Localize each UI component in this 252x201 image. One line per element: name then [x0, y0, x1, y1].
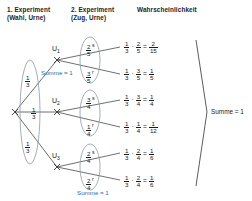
stage2-u3-prob-s: 2 4 s — [86, 148, 91, 166]
result-6-value-denominator: 6 — [149, 181, 154, 188]
result-1-b-denominator: 5 — [136, 47, 141, 54]
node-label-u2: U2 — [52, 97, 60, 106]
stage1-prob-3-denominator: 3 — [25, 147, 30, 154]
result-2-times: · — [131, 71, 134, 78]
stage2-u2-outcome-r: r — [92, 122, 94, 128]
result-4-equals: = — [143, 124, 148, 131]
stage2-u2-outcome-s: s — [92, 95, 95, 101]
result-5-a-denominator: 3 — [124, 154, 129, 161]
stage2-u1-prob-s: 2 5 s — [86, 41, 91, 59]
result-row: 13 · 24 = 16 — [124, 148, 154, 161]
column-header-experiment-1: 1. Experiment (Wahl, Urne) — [7, 6, 50, 23]
stage1-prob-2-denominator: 3 — [31, 113, 36, 120]
result-2-equals: = — [143, 71, 148, 78]
stage2-u1-outcome-r: r — [92, 69, 94, 75]
stage2-u1-prob-s-denominator: 5 — [86, 50, 91, 57]
node-u3-marker — [54, 164, 60, 170]
stage2-u2-prob-r: 1 4 r — [86, 121, 91, 139]
result-6-equals: = — [143, 178, 148, 185]
node-u1-marker — [54, 57, 60, 63]
column-header-experiment-2: 2. Experiment (Zug, Urne) — [71, 6, 114, 23]
result-3-times: · — [131, 97, 134, 104]
result-2-value-denominator: 5 — [149, 74, 154, 81]
stage1-prob-1-denominator: 3 — [25, 81, 30, 88]
result-row: 13 · 34 = 14 — [124, 94, 154, 107]
result-5-times: · — [131, 151, 134, 158]
result-1-equals: = — [143, 44, 148, 51]
result-6-a-denominator: 3 — [124, 181, 129, 188]
result-2-b-denominator: 5 — [136, 74, 141, 81]
result-1-times: · — [131, 44, 134, 51]
stage2-u1-outcome-s: s — [92, 42, 95, 48]
result-4-value-denominator: 12 — [149, 127, 158, 134]
node-label-u3: U3 — [52, 152, 60, 161]
result-3-value-denominator: 4 — [149, 100, 154, 107]
node-label-u1: U1 — [52, 45, 60, 54]
stage2-u1-prob-r: 3 5 r — [86, 68, 91, 86]
stage2-u2-prob-r-denominator: 4 — [86, 130, 91, 137]
stage2-summe-label: Summe = 1 — [77, 189, 109, 196]
result-1-a-denominator: 3 — [124, 47, 129, 54]
result-6-b-denominator: 4 — [136, 181, 141, 188]
node-label-u2-subscript: 2 — [57, 100, 60, 106]
probability-tree-diagram: 1. Experiment (Wahl, Urne) 2. Experiment… — [0, 0, 252, 201]
result-row: 13 · 24 = 16 — [124, 175, 154, 188]
result-4-b-denominator: 4 — [136, 127, 141, 134]
stage2-u3-prob-s-denominator: 4 — [86, 157, 91, 164]
stage2-u2-prob-s-denominator: 4 — [86, 103, 91, 110]
total-summe-label: Summe = 1 — [211, 108, 244, 115]
node-label-u1-subscript: 1 — [57, 48, 60, 54]
result-row: 13 · 25 = 215 — [124, 41, 158, 54]
result-5-value-denominator: 6 — [149, 154, 154, 161]
result-3-a-denominator: 3 — [124, 100, 129, 107]
result-4-times: · — [131, 124, 134, 131]
result-3-b-denominator: 4 — [136, 100, 141, 107]
stage2-u1-prob-r-denominator: 5 — [86, 77, 91, 84]
stage1-summe-label: Summe = 1 — [41, 69, 73, 76]
stage2-u3-outcome-s: s — [92, 149, 95, 155]
stage1-prob-1: 1 3 — [25, 72, 30, 90]
result-2-a-denominator: 3 — [124, 74, 129, 81]
result-3-equals: = — [143, 97, 148, 104]
result-row: 13 · 14 = 112 — [124, 121, 158, 134]
result-5-b-denominator: 4 — [136, 154, 141, 161]
stage1-prob-2: 1 3 — [31, 104, 36, 122]
result-4-a-denominator: 3 — [124, 127, 129, 134]
result-row: 13 · 35 = 15 — [124, 68, 154, 81]
stage2-u3-outcome-r: r — [92, 176, 94, 182]
stage2-u2-prob-s: 3 4 s — [86, 94, 91, 112]
node-label-u3-subscript: 3 — [57, 155, 60, 161]
result-5-equals: = — [143, 151, 148, 158]
total-brace — [196, 40, 207, 186]
stage1-prob-3: 1 3 — [25, 138, 30, 156]
column-header-probability: Wahrscheinlichkeit — [137, 6, 197, 14]
result-1-value-denominator: 15 — [149, 47, 158, 54]
result-6-times: · — [131, 178, 134, 185]
